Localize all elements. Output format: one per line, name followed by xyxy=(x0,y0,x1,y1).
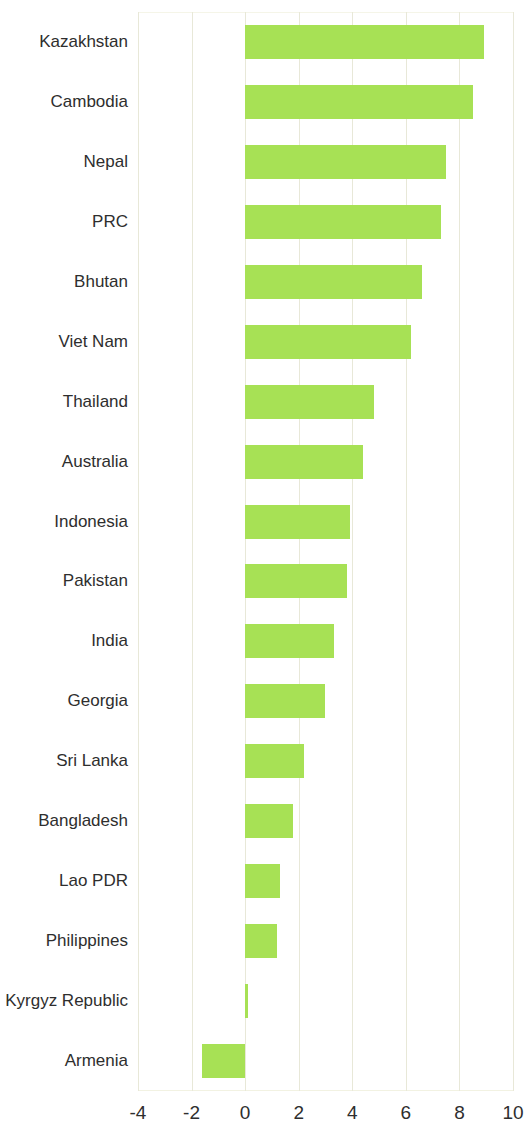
plot-bottom-border xyxy=(138,1090,513,1091)
x-tick-label: 4 xyxy=(322,1102,382,1124)
gridline-10 xyxy=(513,12,514,1091)
category-label: Australia xyxy=(0,453,128,471)
category-label: PRC xyxy=(0,213,128,231)
category-label: India xyxy=(0,632,128,650)
bar xyxy=(245,205,441,239)
bar xyxy=(245,924,277,958)
category-label: Armenia xyxy=(0,1052,128,1070)
gridline-neg2 xyxy=(192,12,193,1091)
bar xyxy=(245,804,293,838)
bar xyxy=(245,505,349,539)
bar xyxy=(245,145,446,179)
bar xyxy=(245,744,304,778)
bar xyxy=(245,984,248,1018)
category-label: Bhutan xyxy=(0,273,128,291)
bar xyxy=(202,1044,245,1078)
category-label: Cambodia xyxy=(0,93,128,111)
bar xyxy=(245,864,280,898)
category-label: Indonesia xyxy=(0,513,128,531)
x-tick-label: 8 xyxy=(429,1102,489,1124)
x-tick-label: -4 xyxy=(108,1102,168,1124)
category-label: Pakistan xyxy=(0,572,128,590)
gridline-neg4 xyxy=(138,12,139,1091)
bar xyxy=(245,325,411,359)
category-label: Bangladesh xyxy=(0,812,128,830)
bar xyxy=(245,684,325,718)
gridline-8 xyxy=(459,12,460,1091)
bar xyxy=(245,265,422,299)
category-label: Lao PDR xyxy=(0,872,128,890)
category-label: Kyrgyz Republic xyxy=(0,992,128,1010)
x-tick-label: 6 xyxy=(376,1102,436,1124)
plot-top-border xyxy=(138,12,513,13)
category-label: Philippines xyxy=(0,932,128,950)
x-tick-label: 0 xyxy=(215,1102,275,1124)
bar xyxy=(245,25,483,59)
x-tick-label: 2 xyxy=(269,1102,329,1124)
category-label: Georgia xyxy=(0,692,128,710)
bar xyxy=(245,564,347,598)
category-label: Nepal xyxy=(0,153,128,171)
bar xyxy=(245,385,374,419)
bar xyxy=(245,445,363,479)
category-label: Sri Lanka xyxy=(0,752,128,770)
category-label: Viet Nam xyxy=(0,333,128,351)
category-label: Thailand xyxy=(0,393,128,411)
bar xyxy=(245,85,473,119)
plot-area xyxy=(138,12,513,1091)
x-tick-label: -2 xyxy=(162,1102,222,1124)
category-label: Kazakhstan xyxy=(0,33,128,51)
x-tick-label: 10 xyxy=(483,1102,528,1124)
bar xyxy=(245,624,333,658)
